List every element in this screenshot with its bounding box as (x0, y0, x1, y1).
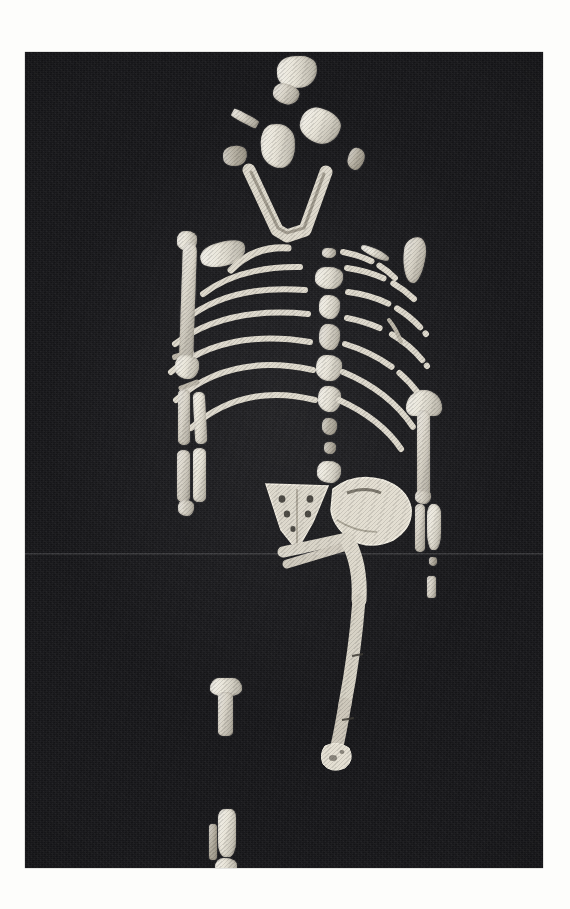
skeleton-layout (25, 52, 543, 868)
tibia-proximal-shaft (218, 692, 233, 736)
page-canvas (0, 0, 570, 909)
fossil-skeleton-photograph (25, 52, 543, 868)
fibula-fragment (209, 824, 217, 860)
tibia-distal-shaft (218, 809, 236, 857)
distal-tibia-end (215, 858, 237, 868)
left-femur (25, 52, 543, 868)
